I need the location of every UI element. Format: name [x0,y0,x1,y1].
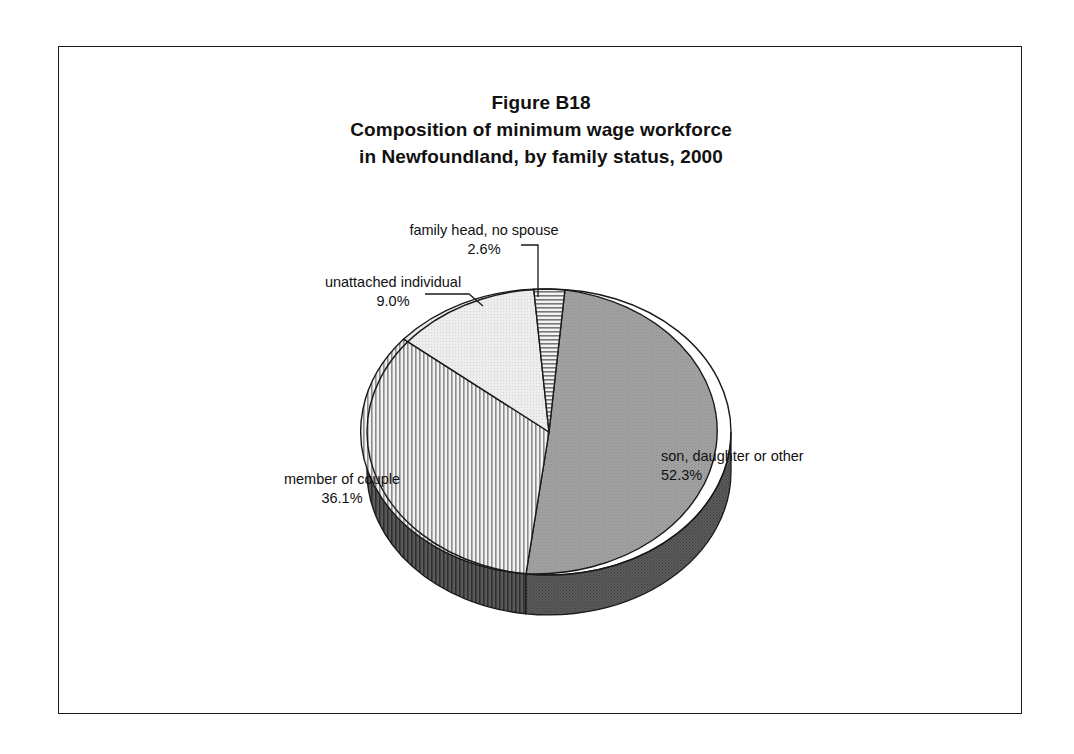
chart-title-line-2: Composition of minimum wage workforce [59,116,1023,143]
pie-side-member-couple [367,432,526,614]
slice-label-member-couple-value: 36.1% [247,489,437,508]
chart-title-line-3: in Newfoundland, by family status, 2000 [59,143,1023,170]
slice-label-son-daughter-name: son, daughter or other [661,447,867,466]
pie-slice-member-couple [361,339,549,574]
pie-slice-family-head [534,289,565,432]
slice-label-unattached: unattached individual 9.0% [287,273,499,311]
slice-label-family-head-value: 2.6% [375,240,593,259]
slice-label-son-daughter-value: 52.3% [661,466,867,485]
slice-label-family-head: family head, no spouse 2.6% [375,221,593,259]
slice-label-unattached-value: 9.0% [287,292,499,311]
slice-label-member-couple: member of couple 36.1% [247,470,437,508]
figure-container: Figure B18 Composition of minimum wage w… [0,0,1074,754]
chart-title-line-1: Figure B18 [59,89,1023,116]
slice-label-family-head-name: family head, no spouse [375,221,593,240]
chart-title: Figure B18 Composition of minimum wage w… [59,89,1023,170]
pie-slice-son-daughter [526,290,717,574]
slice-label-unattached-name: unattached individual [287,273,499,292]
pie-top-outline [367,289,731,575]
figure-frame-border: Figure B18 Composition of minimum wage w… [58,46,1022,714]
slice-label-member-couple-name: member of couple [247,470,437,489]
slice-label-son-daughter: son, daughter or other 52.3% [661,447,867,485]
